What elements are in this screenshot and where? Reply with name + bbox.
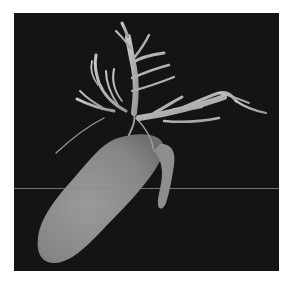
render-panel: 3D rendering of gallbladder with biliary… — [14, 13, 279, 271]
gallbladder — [38, 134, 175, 263]
biliary-tree — [77, 23, 266, 122]
scan-line — [14, 188, 279, 189]
anatomy-render — [14, 13, 279, 271]
